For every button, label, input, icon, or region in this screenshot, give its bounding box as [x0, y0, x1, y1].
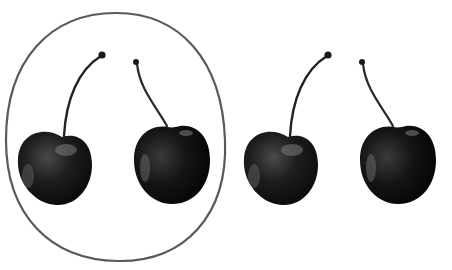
cherry-highlight [140, 154, 150, 182]
cherry-2 [133, 59, 210, 204]
cherry-highlight [248, 164, 260, 188]
stem-tip [98, 51, 105, 58]
cherry-4 [359, 59, 436, 204]
stem-tip [359, 59, 365, 65]
stem-tip [133, 59, 139, 65]
cherries-illustration [0, 0, 452, 270]
cherry-stem [290, 56, 327, 136]
cherry-highlight [366, 154, 376, 182]
cherry-stem [363, 64, 393, 126]
cherry-stem [137, 64, 167, 126]
stem-tip [324, 51, 331, 58]
cherry-highlight [281, 144, 303, 156]
cherry-highlight [179, 130, 193, 136]
cherry-1 [18, 51, 106, 205]
cherry-3 [244, 51, 332, 205]
cherry-stem [64, 56, 101, 136]
cherry-highlight [405, 130, 419, 136]
cherry-highlight [22, 164, 34, 188]
cherry-highlight [55, 144, 77, 156]
